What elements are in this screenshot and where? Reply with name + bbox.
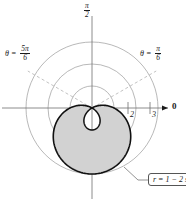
dashed-ray-5pi-6 xyxy=(28,71,92,108)
axis-label-pi-over-2: π 2 xyxy=(84,0,90,19)
theta-equals-left: θ = xyxy=(5,49,16,58)
callout-leader-line xyxy=(124,167,150,180)
theta-equals-right: θ = xyxy=(140,49,151,58)
dashed-ray-pi-6 xyxy=(92,71,156,108)
equation-callout: r = 1 − 2 sin θ xyxy=(148,173,186,186)
axis-label-zero: 0 xyxy=(172,101,177,111)
polar-plot-svg xyxy=(0,0,186,201)
pi-denominator: 2 xyxy=(84,11,90,19)
left-denominator: 6 xyxy=(20,54,30,62)
pi-numerator: π xyxy=(84,2,90,10)
tick-label-3: 3 xyxy=(152,110,156,119)
polar-chart: π 2 θ = 5π 6 θ = π 6 2 3 0 r = 1 − 2 sin… xyxy=(0,0,186,201)
left-numerator: 5π xyxy=(20,45,30,53)
tick-label-2: 2 xyxy=(130,110,134,119)
x-axis-arrow xyxy=(162,105,168,110)
right-numerator: π xyxy=(155,45,161,53)
annotation-theta-pi-6: θ = π 6 xyxy=(140,43,161,62)
annotation-theta-5pi-6: θ = 5π 6 xyxy=(5,43,30,62)
right-denominator: 6 xyxy=(155,54,161,62)
